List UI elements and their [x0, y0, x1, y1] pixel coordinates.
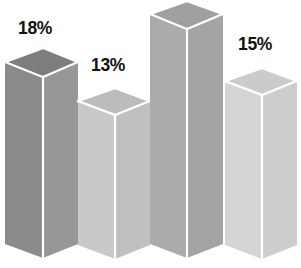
bar-column-2 — [78, 88, 150, 259]
bar-right-face — [43, 62, 78, 258]
bar-value-label-1: 18% — [18, 20, 52, 38]
bar-value-label-4: 15% — [238, 36, 272, 54]
bar-left-face — [225, 81, 262, 259]
bar-right-face — [115, 101, 150, 259]
bar-chart: 18%13%15% — [0, 0, 301, 268]
bar-column-4 — [225, 68, 297, 259]
bar-left-face — [5, 62, 43, 258]
bar-right-face — [262, 81, 297, 259]
bar-left-face — [150, 14, 187, 258]
bar-left-face — [78, 101, 115, 259]
bar-column-3 — [150, 1, 223, 258]
bar-value-label-2: 13% — [91, 57, 125, 75]
bar-right-face — [187, 14, 223, 258]
bar-column-1 — [5, 48, 78, 258]
